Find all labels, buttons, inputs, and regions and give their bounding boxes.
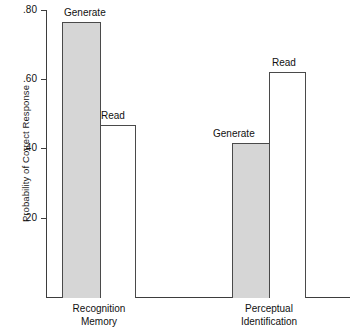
y-tick-label-20: .20 [7, 213, 37, 223]
group-label-recognition-memory-line1: Recognition [39, 303, 159, 316]
bar-perceptual-read [269, 72, 306, 298]
bar-label-perceptual-read: Read [272, 58, 296, 68]
bar-label-recognition-read: Read [101, 111, 125, 121]
y-tick-label-80: .80 [7, 5, 37, 15]
y-axis-line [46, 10, 47, 298]
bar-recognition-generate [62, 22, 101, 298]
y-tick-label-60: .60 [7, 74, 37, 84]
group-label-perceptual-identification-line2: Identification [209, 316, 329, 329]
y-tick-label-40: .40 [7, 143, 37, 153]
bar-label-recognition-generate: Generate [64, 8, 106, 18]
group-label-recognition-memory: Recognition Memory [39, 303, 159, 328]
group-label-perceptual-identification-line1: Perceptual [209, 303, 329, 316]
y-tick-mark-40 [41, 148, 47, 149]
y-tick-mark-60 [41, 79, 47, 80]
bar-label-perceptual-generate: Generate [213, 129, 255, 139]
bar-recognition-read [100, 125, 136, 298]
group-label-perceptual-identification: Perceptual Identification [209, 303, 329, 328]
bar-perceptual-generate [232, 143, 270, 298]
y-tick-mark-20 [41, 218, 47, 219]
bar-chart: Probability of Correct Response .80 .60 … [0, 0, 351, 330]
group-label-recognition-memory-line2: Memory [39, 316, 159, 329]
y-tick-mark-80 [41, 10, 47, 11]
